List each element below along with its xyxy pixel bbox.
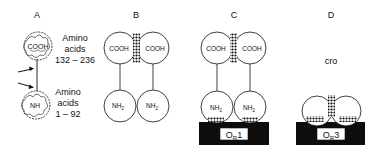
cooh-label: COOH: [109, 45, 129, 52]
dna-contact: [306, 116, 324, 122]
repressor-diagram: A COOH NH Amino acids 132 – 236 Amino ac…: [0, 0, 383, 150]
dna-contact: [208, 117, 224, 122]
nh2-domain-blob: NH: [22, 91, 50, 119]
upper-caption-line2: acids: [64, 44, 86, 54]
panel-a: A COOH NH Amino acids 132 – 236 Amino ac…: [18, 10, 95, 119]
panel-c: C COOH COOH NH2 NH2 OR1: [199, 10, 269, 145]
arrow-icon: [18, 67, 34, 73]
upper-caption-line1: Amino: [62, 33, 88, 43]
cooh-domain-blob: COOH: [24, 32, 52, 60]
dna-contact: [339, 116, 357, 122]
panel-d-label: D: [328, 10, 335, 20]
arrow-icon: [18, 83, 34, 89]
dimer-contact: [328, 95, 335, 117]
cooh-label: COOH: [28, 43, 49, 50]
panel-a-label: A: [34, 10, 40, 20]
panel-c-label: C: [231, 10, 238, 20]
dna-contact: [242, 117, 258, 122]
lower-caption-line1: Amino: [55, 87, 81, 97]
panel-b-label: B: [133, 10, 139, 20]
cooh-label: COOH: [242, 45, 262, 52]
nh-label: NH: [30, 102, 40, 109]
cro-label: cro: [325, 56, 338, 66]
cooh-label: COOH: [206, 45, 226, 52]
panel-d: D cro OR3: [296, 10, 365, 145]
lower-caption-line2: acids: [57, 98, 79, 108]
upper-caption-line3: 132 – 236: [55, 55, 95, 65]
dimer-contact: [133, 33, 140, 63]
lower-caption-line3: 1 – 92: [55, 109, 80, 119]
dimer-contact: [230, 33, 237, 63]
panel-b: B COOH COOH NH2 NH2: [104, 10, 169, 122]
cooh-label: COOH: [145, 45, 165, 52]
